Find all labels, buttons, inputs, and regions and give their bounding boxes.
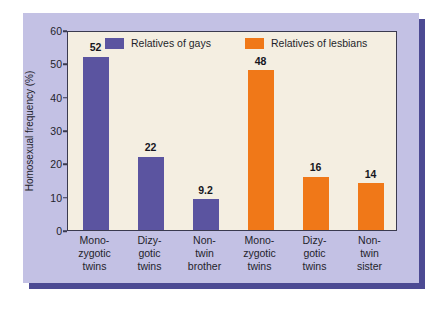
bars-layer: 52229.2481614 xyxy=(68,32,396,230)
x-axis-label-line: twins xyxy=(122,260,177,273)
bar-4[interactable] xyxy=(303,177,329,230)
bar-value-label-4: 16 xyxy=(310,162,322,173)
y-tick-label-40: 40 xyxy=(50,92,62,103)
x-axis-label-line: gotic xyxy=(122,247,177,260)
x-axis-label-line: gotic xyxy=(287,247,342,260)
y-axis-ticks: 0102030405060 xyxy=(40,31,67,231)
bar-0[interactable] xyxy=(83,57,109,230)
x-axis-label-line: Non- xyxy=(342,234,397,247)
y-tick-label-0: 0 xyxy=(56,226,62,237)
y-axis-title: Homosexual frequency (%) xyxy=(23,31,37,231)
x-axis-label-line: brother xyxy=(177,260,232,273)
bar-group-5: 14 xyxy=(343,32,398,230)
x-axis-label-line: twin xyxy=(177,247,232,260)
legend-entry-relatives-of-lesbians: Relatives of lesbians xyxy=(245,36,367,50)
y-tick-label-30: 30 xyxy=(50,126,62,137)
legend-label-gays: Relatives of gays xyxy=(131,38,211,49)
bar-value-label-1: 22 xyxy=(145,142,157,153)
legend-entry-relatives-of-gays: Relatives of gays xyxy=(105,36,211,50)
x-axis-label-line: Mono- xyxy=(67,234,122,247)
x-axis-label-line: twins xyxy=(232,260,287,273)
bar-value-label-3: 48 xyxy=(255,56,267,67)
x-axis-label-line: twins xyxy=(67,260,122,273)
x-axis-label-3: Mono-zygotictwins xyxy=(232,234,287,273)
plot-area: 52229.2481614 xyxy=(67,31,397,231)
bar-value-label-5: 14 xyxy=(365,169,377,180)
bar-1[interactable] xyxy=(138,157,164,230)
x-axis-label-line: Non- xyxy=(177,234,232,247)
x-axis-label-line: Dizy- xyxy=(122,234,177,247)
x-axis-label-line: zygotic xyxy=(67,247,122,260)
x-axis-label-line: zygotic xyxy=(232,247,287,260)
y-tick-label-50: 50 xyxy=(50,59,62,70)
chart-legend: Relatives of gays Relatives of lesbians xyxy=(67,36,397,52)
bar-group-4: 16 xyxy=(288,32,343,230)
bar-5[interactable] xyxy=(358,183,384,230)
bar-value-label-2: 9.2 xyxy=(198,185,213,196)
x-axis-label-5: Non-twinsister xyxy=(342,234,397,273)
bar-group-2: 9.2 xyxy=(178,32,233,230)
x-axis-label-line: twin xyxy=(342,247,397,260)
bar-2[interactable] xyxy=(193,199,219,230)
legend-label-lesbians: Relatives of lesbians xyxy=(271,38,367,49)
x-axis-label-1: Dizy-gotictwins xyxy=(122,234,177,273)
legend-swatch-icon-lesbians xyxy=(245,38,264,49)
x-axis-label-2: Non-twinbrother xyxy=(177,234,232,273)
y-tick-label-60: 60 xyxy=(50,26,62,37)
bar-group-0: 52 xyxy=(68,32,123,230)
x-axis-label-4: Dizy-gotictwins xyxy=(287,234,342,273)
x-axis-label-line: Mono- xyxy=(232,234,287,247)
x-axis-labels: Mono-zygotictwinsDizy-gotictwinsNon-twin… xyxy=(67,234,397,280)
figure-root: Homosexual frequency (%) 0102030405060 5… xyxy=(0,0,440,309)
x-axis-label-0: Mono-zygotictwins xyxy=(67,234,122,273)
bar-3[interactable] xyxy=(248,70,274,230)
x-axis-label-line: sister xyxy=(342,260,397,273)
legend-swatch-icon-gays xyxy=(105,38,124,49)
y-tick-label-10: 10 xyxy=(50,192,62,203)
bar-group-3: 48 xyxy=(233,32,288,230)
x-axis-label-line: twins xyxy=(287,260,342,273)
x-axis-label-line: Dizy- xyxy=(287,234,342,247)
y-tick-label-20: 20 xyxy=(50,159,62,170)
bar-group-1: 22 xyxy=(123,32,178,230)
